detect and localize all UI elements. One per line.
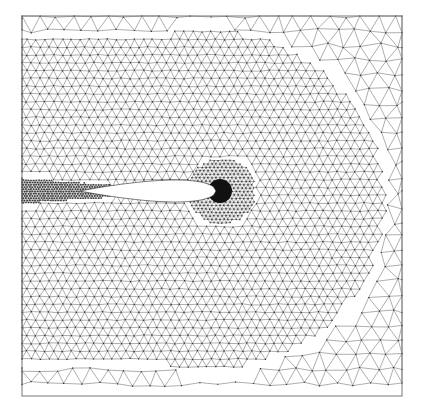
airfoil-mesh-diagram bbox=[0, 0, 422, 414]
mesh-figure bbox=[0, 0, 422, 414]
